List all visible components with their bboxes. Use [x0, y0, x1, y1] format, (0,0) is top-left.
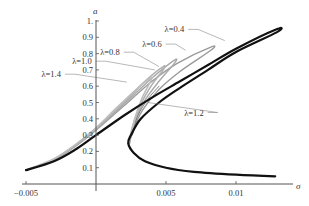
y-tick-label: 0.3 [82, 130, 93, 140]
y-tick-label: 0.1 [82, 163, 93, 173]
curve-label-lambda-08: λ=0.8 [100, 47, 120, 57]
y-tick-label: 0.7 [82, 65, 93, 75]
y-ticks: 0.10.20.30.40.50.60.70.80.91. [82, 16, 99, 173]
curve-group [26, 28, 282, 176]
leader-line-lambda-04 [188, 29, 225, 40]
leader-line-lambda-06 [166, 44, 186, 50]
x-tick-label: −0.005 [14, 188, 38, 198]
bifurcation-chart: λ=0.4λ=0.6λ=0.8λ=1.0λ=1.2λ=1.4 −0.0050.0… [0, 0, 309, 206]
x-tick-label: 0.01 [229, 188, 244, 198]
leader-line-lambda-08 [124, 52, 159, 66]
x-tick-label: 0.005 [156, 188, 175, 198]
curve-label-lambda-12: λ=1.2 [184, 108, 204, 118]
y-tick-label: 0.8 [82, 49, 93, 59]
y-axis-label: a [93, 6, 98, 16]
y-tick-label: 1. [87, 16, 93, 26]
y-tick-label: 0.9 [82, 32, 93, 42]
y-tick-label: 0.2 [82, 146, 93, 156]
x-axis-label: σ [296, 181, 301, 191]
curve-label-lambda-14: λ=1.4 [41, 69, 61, 79]
curve-label-lambda-06: λ=0.6 [142, 39, 162, 49]
y-tick-label: 0.6 [82, 81, 93, 91]
leader-line-lambda-10 [96, 61, 155, 70]
y-tick-label: 0.5 [82, 98, 93, 108]
leader-line-lambda-12 [148, 103, 218, 113]
curve-label-lambda-04: λ=0.4 [165, 24, 185, 34]
y-tick-label: 0.4 [82, 114, 93, 124]
